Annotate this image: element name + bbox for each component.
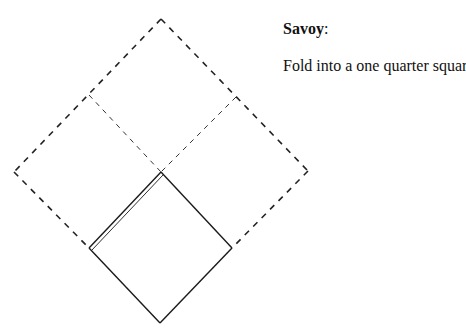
folded-edge-lower-right (160, 248, 232, 323)
folded-square-solid (89, 172, 232, 323)
fold-name: Savoy (283, 20, 324, 37)
instruction-caption: Savoy: Fold into a one quarter square (283, 20, 466, 75)
crease-lines (89, 95, 236, 172)
folded-edge-upper-left-outer (89, 172, 161, 248)
caption-title: Savoy: (283, 20, 466, 38)
folded-edge-upper-right (161, 172, 232, 248)
outer-edge-lower-left (14, 172, 89, 248)
crease-left (89, 95, 161, 172)
crease-right (161, 97, 236, 172)
title-colon: : (324, 20, 328, 37)
outer-edge-lower-right (232, 171, 308, 248)
outer-square-dashed (14, 19, 308, 248)
folded-edge-upper-left-inner (92, 175, 163, 250)
folded-edge-lower-left (89, 248, 160, 323)
fold-instruction: Fold into a one quarter square (283, 57, 466, 75)
